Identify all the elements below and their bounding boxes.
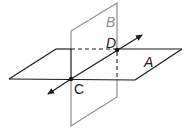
planes-diagram [0,0,184,132]
diagram-canvas: B D A C [0,0,184,132]
label-plane-b: B [106,14,115,30]
label-plane-a: A [144,54,153,70]
line-cd [48,35,142,94]
point-c [69,77,73,81]
label-point-d: D [106,35,116,51]
label-point-c: C [74,81,84,97]
